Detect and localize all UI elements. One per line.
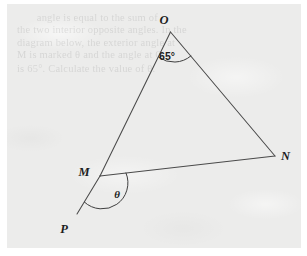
figure-root: angle is equal to the sum of the two int… — [0, 0, 307, 256]
scanned-page-panel: angle is equal to the sum of the two int… — [7, 4, 301, 248]
angle-label-theta: θ — [114, 188, 120, 200]
segment-ON — [171, 32, 276, 156]
vertex-label-N: N — [280, 149, 291, 163]
geometry-diagram: O N M P 65° θ — [7, 4, 301, 248]
vertex-label-P: P — [60, 222, 68, 236]
vertex-label-O: O — [159, 13, 168, 27]
vertex-label-M: M — [77, 165, 90, 179]
angle-label-65-degrees: 65° — [159, 50, 175, 62]
